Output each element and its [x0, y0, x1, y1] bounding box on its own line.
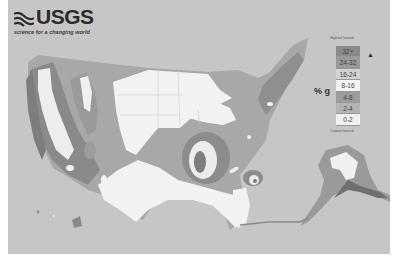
aleutian-chain [240, 218, 308, 225]
charleston-core [253, 179, 257, 183]
legend-class-4-8: 4-8 [336, 92, 360, 103]
usgs-wordmark: USGS [36, 5, 94, 29]
hazard-legend: Highest hazard ▲ % g 32+ 24-32 16-24 8-1… [314, 36, 384, 136]
legend-class-8-16: 8-16 [336, 80, 360, 91]
legend-class-32-plus: 32+ [336, 46, 360, 57]
hawaii-big-island [72, 216, 82, 228]
legend-unit: % g [314, 86, 330, 96]
legend-class-0-2: 0-2 [336, 114, 360, 125]
legend-class-24-32: 24-32 [336, 57, 360, 68]
hazard-map-panel: USGS science for a changing world Highes… [8, 0, 390, 254]
west-pocket-2 [101, 175, 107, 185]
northeast-pocket [267, 102, 273, 106]
usgs-logo: USGS science for a changing world [12, 7, 112, 37]
legend-class-2-4: 2-4 [336, 103, 360, 114]
new-madrid-core [194, 151, 206, 173]
hawaii-dot-2 [53, 215, 55, 217]
usgs-tagline: science for a changing world [14, 29, 90, 35]
legend-scale: 32+ 24-32 16-24 8-16 4-8 2-4 0-2 [336, 46, 360, 126]
legend-class-16-24: 16-24 [336, 69, 360, 80]
hawaii-dot-1 [37, 211, 40, 214]
usgs-wave-icon [14, 12, 34, 27]
up-arrow-icon: ▲ [367, 51, 374, 58]
west-pocket-3 [84, 141, 96, 159]
west-pocket-1 [66, 165, 74, 171]
legend-highest-label: Highest hazard [320, 36, 364, 40]
ohio-pocket [247, 135, 251, 139]
legend-lowest-label: Lowest hazard [320, 129, 364, 133]
